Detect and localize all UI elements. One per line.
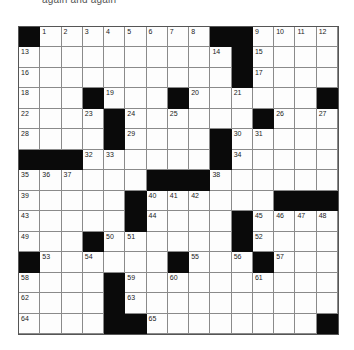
grid-cell[interactable] xyxy=(62,232,83,252)
grid-cell[interactable] xyxy=(295,150,316,170)
grid-cell[interactable]: 12 xyxy=(317,27,338,47)
grid-cell[interactable] xyxy=(147,129,168,149)
grid-cell[interactable]: 61 xyxy=(253,273,274,293)
grid-cell[interactable] xyxy=(104,252,125,272)
grid-cell[interactable] xyxy=(274,68,295,88)
grid-cell[interactable] xyxy=(295,88,316,108)
grid-cell[interactable] xyxy=(147,232,168,252)
grid-cell[interactable]: 25 xyxy=(168,109,189,129)
grid-cell[interactable]: 2 xyxy=(62,27,83,47)
grid-cell[interactable]: 20 xyxy=(189,88,210,108)
grid-cell[interactable]: 50 xyxy=(104,232,125,252)
grid-cell[interactable] xyxy=(40,88,61,108)
grid-cell[interactable] xyxy=(168,47,189,67)
grid-cell[interactable] xyxy=(83,314,104,334)
grid-cell[interactable]: 4 xyxy=(104,27,125,47)
grid-cell[interactable] xyxy=(104,170,125,190)
grid-cell[interactable] xyxy=(210,68,231,88)
grid-cell[interactable]: 16 xyxy=(19,68,40,88)
grid-cell[interactable] xyxy=(274,88,295,108)
grid-cell[interactable]: 56 xyxy=(232,252,253,272)
grid-cell[interactable]: 49 xyxy=(19,232,40,252)
grid-cell[interactable] xyxy=(232,170,253,190)
grid-cell[interactable]: 55 xyxy=(189,252,210,272)
grid-cell[interactable] xyxy=(62,314,83,334)
grid-cell[interactable] xyxy=(40,293,61,313)
grid-cell[interactable] xyxy=(147,252,168,272)
grid-cell[interactable] xyxy=(274,273,295,293)
grid-cell[interactable]: 57 xyxy=(274,252,295,272)
grid-cell[interactable]: 60 xyxy=(168,273,189,293)
grid-cell[interactable] xyxy=(189,293,210,313)
grid-cell[interactable] xyxy=(168,314,189,334)
grid-cell[interactable] xyxy=(125,88,146,108)
grid-cell[interactable]: 14 xyxy=(210,47,231,67)
grid-cell[interactable] xyxy=(274,129,295,149)
grid-cell[interactable] xyxy=(189,129,210,149)
grid-cell[interactable] xyxy=(147,150,168,170)
grid-cell[interactable] xyxy=(317,293,338,313)
grid-cell[interactable] xyxy=(62,252,83,272)
grid-cell[interactable] xyxy=(295,47,316,67)
grid-cell[interactable] xyxy=(147,68,168,88)
grid-cell[interactable] xyxy=(295,170,316,190)
grid-cell[interactable]: 23 xyxy=(83,109,104,129)
grid-cell[interactable] xyxy=(189,68,210,88)
grid-cell[interactable]: 21 xyxy=(232,88,253,108)
grid-cell[interactable] xyxy=(210,293,231,313)
grid-cell[interactable] xyxy=(147,109,168,129)
grid-cell[interactable] xyxy=(317,150,338,170)
grid-cell[interactable] xyxy=(210,232,231,252)
grid-cell[interactable] xyxy=(317,273,338,293)
grid-cell[interactable] xyxy=(232,293,253,313)
grid-cell[interactable]: 34 xyxy=(232,150,253,170)
grid-cell[interactable] xyxy=(40,129,61,149)
grid-cell[interactable] xyxy=(40,47,61,67)
grid-cell[interactable]: 33 xyxy=(104,150,125,170)
grid-cell[interactable]: 64 xyxy=(19,314,40,334)
grid-cell[interactable] xyxy=(40,273,61,293)
grid-cell[interactable] xyxy=(62,68,83,88)
grid-cell[interactable] xyxy=(295,109,316,129)
grid-cell[interactable] xyxy=(253,293,274,313)
grid-cell[interactable] xyxy=(40,211,61,231)
grid-cell[interactable] xyxy=(189,109,210,129)
grid-cell[interactable] xyxy=(253,88,274,108)
grid-cell[interactable] xyxy=(295,129,316,149)
grid-cell[interactable] xyxy=(168,293,189,313)
grid-cell[interactable] xyxy=(62,88,83,108)
grid-cell[interactable] xyxy=(317,47,338,67)
grid-cell[interactable] xyxy=(125,68,146,88)
grid-cell[interactable]: 39 xyxy=(19,191,40,211)
grid-cell[interactable]: 45 xyxy=(253,211,274,231)
grid-cell[interactable] xyxy=(232,109,253,129)
grid-cell[interactable]: 35 xyxy=(19,170,40,190)
grid-cell[interactable]: 27 xyxy=(317,109,338,129)
grid-cell[interactable] xyxy=(253,191,274,211)
grid-cell[interactable] xyxy=(295,232,316,252)
grid-cell[interactable] xyxy=(125,252,146,272)
grid-cell[interactable] xyxy=(83,211,104,231)
grid-cell[interactable] xyxy=(253,170,274,190)
grid-cell[interactable]: 17 xyxy=(253,68,274,88)
grid-cell[interactable] xyxy=(147,47,168,67)
grid-cell[interactable] xyxy=(62,191,83,211)
grid-cell[interactable] xyxy=(40,191,61,211)
grid-cell[interactable] xyxy=(83,129,104,149)
grid-cell[interactable] xyxy=(232,273,253,293)
grid-cell[interactable] xyxy=(210,314,231,334)
grid-cell[interactable]: 18 xyxy=(19,88,40,108)
grid-cell[interactable]: 8 xyxy=(189,27,210,47)
grid-cell[interactable]: 43 xyxy=(19,211,40,231)
grid-cell[interactable] xyxy=(232,191,253,211)
grid-cell[interactable] xyxy=(317,68,338,88)
grid-cell[interactable] xyxy=(62,47,83,67)
grid-cell[interactable]: 3 xyxy=(83,27,104,47)
grid-cell[interactable] xyxy=(125,47,146,67)
grid-cell[interactable] xyxy=(83,191,104,211)
grid-cell[interactable] xyxy=(168,150,189,170)
grid-cell[interactable]: 37 xyxy=(62,170,83,190)
grid-cell[interactable]: 46 xyxy=(274,211,295,231)
grid-cell[interactable]: 41 xyxy=(168,191,189,211)
grid-cell[interactable] xyxy=(317,170,338,190)
